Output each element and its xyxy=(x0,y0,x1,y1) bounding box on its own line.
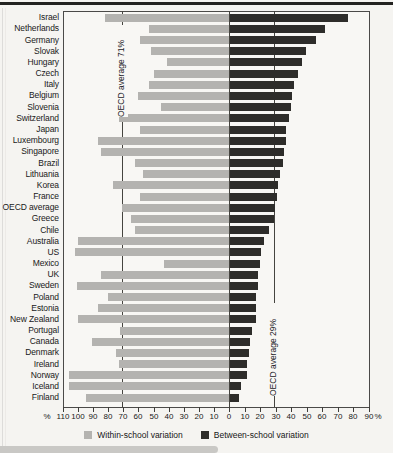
within-school-bar xyxy=(77,282,229,290)
country-label: Chile xyxy=(0,225,59,236)
chart-legend: Within-school variation Between-school v… xyxy=(0,429,393,441)
between-school-bar xyxy=(230,360,247,368)
country-label: Luxembourg xyxy=(0,135,59,146)
within-school-swatch-icon xyxy=(84,431,92,439)
between-school-swatch-icon xyxy=(201,431,209,439)
within-school-bar xyxy=(143,170,229,178)
between-school-bar xyxy=(230,327,252,335)
within-school-bar xyxy=(161,103,229,111)
country-label: France xyxy=(0,191,59,202)
between-school-bar xyxy=(230,137,286,145)
within-school-bar xyxy=(122,204,229,212)
within-school-bar xyxy=(120,327,229,335)
between-school-bar xyxy=(230,215,274,223)
country-label: Singapore xyxy=(0,146,59,157)
within-school-bar xyxy=(98,137,229,145)
axis-unit-right: % xyxy=(370,412,386,421)
legend-label-within: Within-school variation xyxy=(97,430,183,440)
between-school-bar xyxy=(230,237,264,245)
within-school-bar xyxy=(78,315,229,323)
between-school-bar xyxy=(230,81,294,89)
within-school-bar xyxy=(119,114,229,122)
between-school-bar xyxy=(230,159,283,167)
country-label: Belgium xyxy=(0,90,59,101)
within-school-bar xyxy=(149,25,229,33)
between-school-bar xyxy=(230,204,275,212)
within-school-bar xyxy=(78,237,229,245)
within-school-bar xyxy=(131,215,229,223)
within-school-bar xyxy=(116,349,229,357)
legend-item-within: Within-school variation xyxy=(84,430,183,440)
scanned-chart-page: Israel Netherlands Germany Slovak Hungar… xyxy=(0,0,393,453)
country-label: Israel xyxy=(0,12,59,23)
oecd-average-right-label: OECD average 29% xyxy=(267,303,280,396)
between-school-bar xyxy=(230,304,256,312)
between-school-bar xyxy=(230,148,284,156)
country-label: Brazil xyxy=(0,158,59,169)
between-school-bar xyxy=(230,126,286,134)
within-school-bar xyxy=(113,181,229,189)
within-school-bar xyxy=(101,148,229,156)
axis-unit-left: % xyxy=(39,412,55,421)
country-label: Greece xyxy=(0,213,59,224)
within-school-bar xyxy=(149,81,229,89)
between-school-bar xyxy=(230,92,292,100)
within-school-bar xyxy=(69,382,229,390)
within-school-bar xyxy=(105,14,229,22)
country-label: Lithuania xyxy=(0,169,59,180)
country-label: Australia xyxy=(0,236,59,247)
country-label: Netherlands xyxy=(0,23,59,34)
within-school-bar xyxy=(92,338,229,346)
within-school-bar xyxy=(140,193,229,201)
between-school-bar xyxy=(230,382,241,390)
country-label: New Zealand xyxy=(0,314,59,325)
country-label: Canada xyxy=(0,336,59,347)
between-school-bar xyxy=(230,349,249,357)
between-school-bar xyxy=(230,293,256,301)
country-label: Japan xyxy=(0,124,59,135)
bars-layer: Israel Netherlands Germany Slovak Hungar… xyxy=(0,0,393,453)
between-school-bar xyxy=(230,315,256,323)
between-school-bar xyxy=(230,70,298,78)
between-school-bar xyxy=(230,271,258,279)
within-school-bar xyxy=(86,394,229,402)
between-school-bar xyxy=(230,47,306,55)
between-school-bar xyxy=(230,36,316,44)
between-school-bar xyxy=(230,14,348,22)
between-school-bar xyxy=(230,25,325,33)
between-school-bar xyxy=(230,394,239,402)
country-label: Ireland xyxy=(0,359,59,370)
between-school-bar xyxy=(230,260,260,268)
within-school-bar xyxy=(164,260,229,268)
legend-label-between: Between-school variation xyxy=(214,430,309,440)
between-school-bar xyxy=(230,282,258,290)
country-label: Portugal xyxy=(0,325,59,336)
country-label: Germany xyxy=(0,35,59,46)
legend-item-between: Between-school variation xyxy=(201,430,309,440)
between-school-bar xyxy=(230,170,280,178)
within-school-bar xyxy=(154,70,229,78)
between-school-bar xyxy=(230,338,250,346)
within-school-bar xyxy=(108,293,229,301)
between-school-bar xyxy=(230,58,302,66)
between-school-bar xyxy=(230,226,269,234)
between-school-bar xyxy=(230,103,291,111)
country-label: Denmark xyxy=(0,347,59,358)
country-label: Korea xyxy=(0,180,59,191)
within-school-bar xyxy=(75,248,229,256)
country-label: Estonia xyxy=(0,303,59,314)
country-label: Slovak xyxy=(0,46,59,57)
country-label: Poland xyxy=(0,292,59,303)
within-school-bar xyxy=(140,126,229,134)
within-school-bar xyxy=(138,92,229,100)
country-label: UK xyxy=(0,269,59,280)
country-label: US xyxy=(0,247,59,258)
country-label: Italy xyxy=(0,79,59,90)
within-school-bar xyxy=(101,271,229,279)
page-bottom-artifact xyxy=(0,446,218,453)
between-school-bar xyxy=(230,181,278,189)
country-label: Sweden xyxy=(0,280,59,291)
oecd-average-left-label: OECD average 71% xyxy=(115,25,128,117)
between-school-bar xyxy=(230,248,261,256)
country-label: OECD average xyxy=(0,202,59,213)
